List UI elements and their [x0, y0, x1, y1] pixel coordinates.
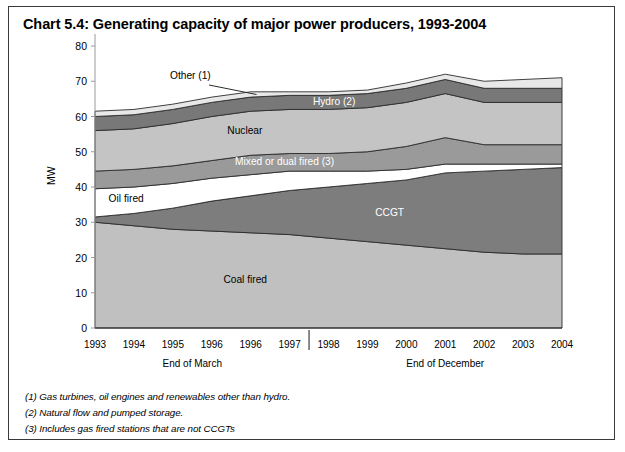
- area-label-nuclear: Nuclear: [227, 126, 262, 136]
- footnote-1: (1) Gas turbines, oil engines and renewa…: [25, 391, 290, 402]
- y-axis-tick: 20: [57, 253, 87, 263]
- x-axis-tick: 1996: [192, 340, 232, 350]
- area-label-oil: Oil fired: [109, 194, 144, 204]
- x-axis-tick: 1996: [231, 340, 271, 350]
- plot-area: MW 8070605040302010019931994199519961996…: [9, 7, 616, 441]
- area-label-ccgt: CCGT: [375, 208, 404, 218]
- area-label-other: Other (1): [170, 71, 211, 81]
- x-axis-group-label-december: End of December: [375, 359, 515, 369]
- x-axis-tick: 2003: [503, 340, 543, 350]
- y-axis-tick: 50: [57, 147, 87, 157]
- x-axis-tick: 2002: [464, 340, 504, 350]
- x-axis-tick: 1994: [114, 340, 154, 350]
- x-axis-tick: 1995: [153, 340, 193, 350]
- y-axis-tick: 10: [57, 288, 87, 298]
- y-axis-title: MW: [45, 166, 57, 185]
- x-axis-tick: 1998: [309, 340, 349, 350]
- stacked-area-chart: [9, 7, 616, 441]
- x-axis-tick: 2000: [386, 340, 426, 350]
- area-label-mixed: Mixed or dual fired (3): [235, 157, 334, 167]
- y-axis-tick: 0: [57, 323, 87, 333]
- footnote-3: (3) Includes gas fired stations that are…: [25, 423, 235, 434]
- y-axis-tick: 30: [57, 217, 87, 227]
- x-axis-tick: 2004: [542, 340, 582, 350]
- x-axis-tick: 1997: [270, 340, 310, 350]
- x-axis-tick: 1993: [75, 340, 115, 350]
- y-axis-tick: 40: [57, 182, 87, 192]
- y-axis-tick: 70: [57, 76, 87, 86]
- x-axis-tick: 2001: [425, 340, 465, 350]
- chart-frame: Chart 5.4: Generating capacity of major …: [8, 6, 615, 440]
- footnote-2: (2) Natural flow and pumped storage.: [25, 407, 183, 418]
- area-label-hydro: Hydro (2): [313, 97, 355, 107]
- y-axis-tick: 60: [57, 112, 87, 122]
- x-axis-group-label-march: End of March: [122, 359, 262, 369]
- x-axis-tick: 1999: [347, 340, 387, 350]
- area-label-coal: Coal fired: [223, 275, 267, 285]
- y-axis-tick: 80: [57, 41, 87, 51]
- other-leader-line: [209, 85, 257, 95]
